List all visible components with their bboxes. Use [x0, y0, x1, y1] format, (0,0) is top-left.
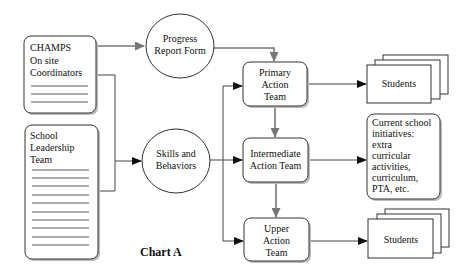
- node-intermediate-action-team[interactable]: Intermediate Action Team: [243, 138, 310, 184]
- node-upper-action-team[interactable]: Upper Action Team: [244, 218, 311, 263]
- leadership-line-2: Leadership: [30, 142, 74, 153]
- upper-line-3: Team: [265, 247, 287, 258]
- primary-line-2: Action: [261, 79, 288, 90]
- svg-text:Report Form: Report Form: [154, 45, 206, 56]
- svg-text:Students: Students: [384, 234, 419, 245]
- primary-line-3: Team: [264, 91, 286, 102]
- svg-text:PTA, etc.: PTA, etc.: [372, 183, 409, 194]
- svg-text:Coordinators: Coordinators: [30, 67, 82, 78]
- svg-text:School: School: [30, 130, 58, 141]
- initiatives-line-4: curricular: [372, 150, 412, 161]
- edge-progress-primary: [214, 48, 274, 61]
- edge-branch-upper: [223, 160, 243, 241]
- initiatives-line-7: PTA, etc.: [372, 183, 409, 194]
- progress-line-2: Report Form: [154, 45, 206, 56]
- initiatives-line-5: activities,: [372, 161, 411, 172]
- svg-text:Progress: Progress: [163, 33, 198, 44]
- svg-text:Upper: Upper: [264, 223, 290, 234]
- students-top-label: Students: [382, 78, 417, 89]
- node-current-school-initiatives[interactable]: Current school initiatives: extra curric…: [367, 114, 442, 201]
- upper-line-2: Action: [263, 235, 290, 246]
- node-champs-coordinators[interactable]: CHAMPS On site Coordinators: [24, 36, 98, 115]
- svg-text:curriculum,: curriculum,: [372, 172, 418, 183]
- svg-text:Current school: Current school: [372, 117, 431, 128]
- svg-text:Action: Action: [261, 79, 288, 90]
- svg-text:Leadership: Leadership: [30, 142, 74, 153]
- flow-diagram: CHAMPS On site Coordinators School Leade…: [0, 0, 473, 280]
- svg-text:Behaviors: Behaviors: [156, 160, 197, 171]
- champs-line-1: CHAMPS: [30, 42, 71, 53]
- node-students-top[interactable]: Students: [367, 55, 448, 103]
- svg-text:Students: Students: [382, 78, 417, 89]
- svg-text:Team: Team: [30, 154, 52, 165]
- skills-line-1: Skills and: [156, 148, 196, 159]
- champs-line-3: Coordinators: [30, 67, 82, 78]
- svg-text:CHAMPS: CHAMPS: [30, 42, 71, 53]
- edge-branch-primary: [223, 86, 242, 160]
- intermediate-line-1: Intermediate: [250, 148, 301, 159]
- diagram-title: Chart A: [140, 245, 182, 259]
- svg-text:Team: Team: [264, 91, 286, 102]
- svg-text:Action: Action: [263, 235, 290, 246]
- node-school-leadership-team[interactable]: School Leadership Team: [25, 125, 100, 261]
- intermediate-line-2: Action Team: [250, 160, 302, 171]
- leadership-line-1: School: [30, 130, 58, 141]
- svg-text:Primary: Primary: [259, 67, 291, 78]
- initiatives-line-1: Current school: [372, 117, 431, 128]
- node-students-bottom[interactable]: Students: [368, 209, 449, 258]
- svg-text:curricular: curricular: [372, 150, 412, 161]
- node-progress-report-form[interactable]: Progress Report Form: [146, 14, 214, 78]
- svg-text:extra: extra: [372, 139, 393, 150]
- connectors: [96, 46, 367, 241]
- svg-text:activities,: activities,: [372, 161, 411, 172]
- node-primary-action-team[interactable]: Primary Action Team: [243, 62, 309, 108]
- initiatives-line-3: extra: [372, 139, 393, 150]
- progress-line-1: Progress: [163, 33, 198, 44]
- initiatives-line-6: curriculum,: [372, 172, 418, 183]
- node-skills-and-behaviors[interactable]: Skills and Behaviors: [142, 129, 210, 193]
- svg-text:On site: On site: [30, 55, 59, 66]
- edge-leadership-skills: [99, 161, 141, 191]
- svg-text:Team: Team: [265, 247, 287, 258]
- svg-text:Intermediate: Intermediate: [250, 148, 301, 159]
- leadership-line-3: Team: [30, 154, 52, 165]
- svg-text:Action Team: Action Team: [250, 160, 302, 171]
- svg-text:Skills and: Skills and: [156, 148, 196, 159]
- champs-line-2: On site: [30, 55, 59, 66]
- initiatives-line-2: initiatives:: [372, 128, 414, 139]
- skills-line-2: Behaviors: [156, 160, 197, 171]
- students-bottom-label: Students: [384, 234, 419, 245]
- upper-line-1: Upper: [264, 223, 290, 234]
- svg-text:initiatives:: initiatives:: [372, 128, 414, 139]
- primary-line-1: Primary: [259, 67, 291, 78]
